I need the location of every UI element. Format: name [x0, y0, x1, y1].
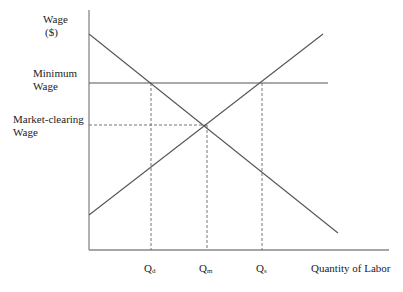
minimum-wage-label-line1: Minimum: [33, 67, 77, 80]
y-axis-label: Wage ($): [43, 13, 68, 39]
market-clearing-wage-label: Market-clearing Wage: [13, 113, 84, 139]
market-clearing-label-line1: Market-clearing: [13, 113, 84, 126]
market-clearing-label-line2: Wage: [13, 126, 84, 139]
qs-label: Qs: [256, 262, 267, 278]
qm-label: Qm: [199, 262, 212, 278]
minimum-wage-label: Minimum Wage: [33, 67, 77, 93]
y-axis-label-line2: ($): [43, 26, 68, 39]
qd-label: Qd: [144, 262, 155, 278]
x-axis-label: Quantity of Labor: [311, 262, 390, 275]
labor-market-diagram: [0, 0, 403, 292]
y-axis-label-line1: Wage: [43, 13, 68, 26]
demand-curve: [89, 34, 338, 233]
supply-curve: [89, 34, 323, 215]
minimum-wage-label-line2: Wage: [33, 80, 77, 93]
